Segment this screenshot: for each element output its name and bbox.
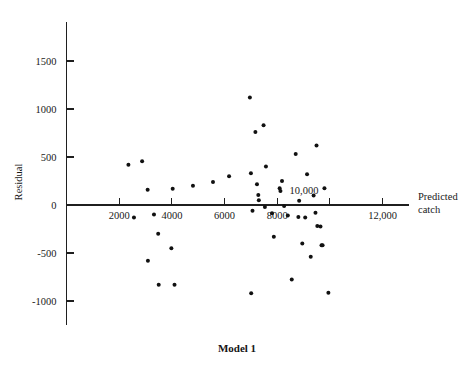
data-point	[255, 182, 259, 186]
data-point	[173, 283, 177, 287]
data-point	[257, 198, 261, 202]
data-point	[157, 283, 161, 287]
residual-plot-figure: 150010005000-500-1000200040006000800010,…	[0, 0, 474, 374]
data-point	[290, 277, 294, 281]
axes-group	[67, 22, 410, 325]
y-axis-tick-label: -500	[37, 248, 56, 259]
y-axis-tick-label: 1500	[36, 56, 57, 67]
x-axis-tick-label: 2000	[109, 210, 130, 221]
data-point	[321, 243, 325, 247]
axis-ticks-group	[67, 61, 383, 301]
data-point	[146, 188, 150, 192]
data-point	[272, 235, 276, 239]
data-point	[322, 186, 326, 190]
x-axis-label-line1: Predicted	[418, 191, 458, 202]
y-axis-tick-label: -1000	[32, 296, 57, 307]
figure-caption: Model 1	[218, 342, 256, 354]
data-point	[305, 172, 309, 176]
data-point	[191, 184, 195, 188]
data-point	[318, 225, 322, 229]
y-axis-tick-label: 1000	[36, 104, 57, 115]
data-point	[256, 193, 260, 197]
data-point	[315, 143, 319, 147]
data-point	[132, 215, 136, 219]
data-point	[326, 291, 330, 295]
y-axis-tick-label: 0	[51, 200, 56, 211]
data-point	[309, 255, 313, 259]
data-point	[146, 259, 150, 263]
data-point	[169, 246, 173, 250]
x-axis-tick-label: 8000	[267, 210, 288, 221]
data-point	[227, 174, 231, 178]
data-point	[294, 152, 298, 156]
data-point	[300, 241, 304, 245]
data-point	[278, 189, 282, 193]
data-point	[264, 165, 268, 169]
scatter-plot-svg: 150010005000-500-1000200040006000800010,…	[0, 0, 474, 374]
data-point	[248, 95, 252, 99]
data-point	[262, 123, 266, 127]
x-axis-tick-label: 4000	[161, 210, 182, 221]
data-point	[156, 232, 160, 236]
data-point	[296, 215, 300, 219]
data-point	[286, 214, 290, 218]
data-point	[251, 209, 255, 213]
data-point	[249, 171, 253, 175]
x-axis-tick-label: 12,000	[368, 210, 397, 221]
data-point	[282, 204, 286, 208]
data-point	[140, 159, 144, 163]
data-point	[126, 163, 130, 167]
data-point	[312, 193, 316, 197]
data-point	[263, 205, 267, 209]
x-axis-label-line2: catch	[418, 204, 441, 215]
data-point	[280, 179, 284, 183]
data-point	[313, 211, 317, 215]
data-point	[253, 130, 257, 134]
y-axis-label: Residual	[13, 164, 24, 201]
data-point	[211, 180, 215, 184]
data-point	[303, 215, 307, 219]
data-point	[171, 187, 175, 191]
data-point	[270, 211, 274, 215]
data-point	[152, 213, 156, 217]
x-axis-tick-label: 6000	[214, 210, 235, 221]
data-point	[297, 199, 301, 203]
y-axis-tick-label: 500	[41, 152, 57, 163]
data-point	[249, 291, 253, 295]
